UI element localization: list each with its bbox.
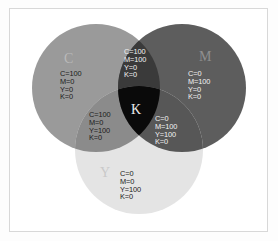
values-cyan-yellow: C=100 M=0 Y=100 K=0 <box>89 111 110 142</box>
set-letter-cyan: C <box>64 52 73 66</box>
values-cyan-magenta: C=100 M=100 Y=0 K=0 <box>124 48 146 79</box>
values-magenta-yellow: C=0 M=100 Y=100 K=0 <box>155 115 177 146</box>
values-cyan: C=100 M=0 Y=0 K=0 <box>60 70 81 101</box>
figure-canvas: C M Y K C=100 M=0 Y=0 K=0 C=0 M=100 Y=0 … <box>0 0 278 241</box>
set-letter-magenta: M <box>199 50 211 64</box>
values-magenta: C=0 M=100 Y=0 K=0 <box>188 70 210 101</box>
set-letter-k: K <box>131 103 141 117</box>
values-yellow: C=0 M=0 Y=100 K=0 <box>120 170 141 201</box>
venn-diagram <box>0 0 278 241</box>
set-letter-yellow: Y <box>100 166 110 180</box>
